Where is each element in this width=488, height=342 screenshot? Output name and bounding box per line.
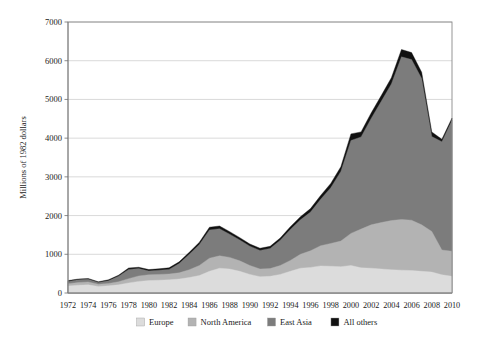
- x-tick-label: 1992: [262, 301, 278, 310]
- legend-swatch: [137, 318, 145, 326]
- y-tick-label: 4000: [45, 133, 62, 143]
- y-axis-ticks: 01000200030004000500060007000: [45, 17, 68, 298]
- legend-item[interactable]: All others: [331, 317, 377, 327]
- y-tick-label: 0: [58, 288, 62, 298]
- y-tick-label: 6000: [45, 56, 62, 66]
- x-tick-label: 2006: [403, 301, 419, 310]
- x-tick-label: 1978: [120, 301, 136, 310]
- y-tick-label: 5000: [45, 94, 62, 104]
- chart-legend: EuropeNorth AmericaEast AsiaAll others: [137, 317, 378, 327]
- legend-item[interactable]: East Asia: [268, 317, 313, 327]
- x-tick-label: 2002: [363, 301, 379, 310]
- y-axis-label: Millions of 1982 dollars: [18, 116, 28, 198]
- x-tick-label: 1996: [302, 301, 318, 310]
- y-tick-label: 1000: [45, 249, 62, 259]
- x-tick-label: 1972: [60, 301, 76, 310]
- y-tick-label: 3000: [45, 172, 62, 182]
- x-tick-label: 1974: [80, 301, 96, 310]
- x-tick-label: 1988: [221, 301, 237, 310]
- x-tick-label: 1976: [100, 301, 116, 310]
- x-tick-label: 1984: [181, 301, 197, 310]
- legend-swatch: [268, 318, 276, 326]
- x-tick-label: 1986: [201, 301, 217, 310]
- legend-label: All others: [343, 317, 377, 327]
- x-tick-label: 1990: [242, 301, 258, 310]
- legend-swatch: [188, 318, 196, 326]
- x-tick-label: 1982: [161, 301, 177, 310]
- area-series-group: [68, 49, 452, 293]
- y-tick-label: 2000: [45, 211, 62, 221]
- x-tick-label: 2008: [424, 301, 440, 310]
- stacked-area-chart: 01000200030004000500060007000 1972197419…: [0, 0, 488, 342]
- x-tick-label: 2010: [444, 301, 460, 310]
- legend-swatch: [331, 318, 339, 326]
- x-tick-label: 1980: [141, 301, 157, 310]
- x-tick-label: 1994: [282, 301, 298, 310]
- x-axis-ticks: 1972197419761978198019821984198619881990…: [60, 301, 460, 310]
- legend-label: East Asia: [280, 317, 312, 327]
- legend-item[interactable]: Europe: [137, 317, 174, 327]
- x-tick-label: 2004: [383, 301, 399, 310]
- y-tick-label: 7000: [45, 17, 62, 27]
- x-tick-label: 2000: [343, 301, 359, 310]
- legend-item[interactable]: North America: [188, 317, 251, 327]
- chart-container: 01000200030004000500060007000 1972197419…: [0, 0, 488, 342]
- x-tick-label: 1998: [323, 301, 339, 310]
- legend-label: Europe: [149, 317, 174, 327]
- legend-label: North America: [201, 317, 252, 327]
